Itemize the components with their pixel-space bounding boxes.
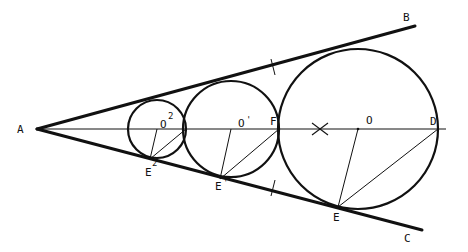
ray-ab: [37, 26, 415, 129]
label-o2: O: [160, 119, 167, 130]
label-e: E: [333, 212, 340, 223]
radius-oe: [338, 129, 358, 207]
label-e1-prime: ': [223, 179, 228, 188]
tick-mark-top: [271, 59, 275, 75]
chord-ed: [338, 129, 438, 207]
label-e1: E: [215, 181, 222, 192]
center-dot-o: [357, 128, 360, 131]
label-f: F: [270, 116, 277, 127]
geometry-diagram: [0, 0, 468, 252]
label-b: B: [403, 12, 410, 23]
label-o2-superscript: 2: [168, 112, 173, 121]
label-o1: O: [238, 118, 245, 129]
label-o1-prime: ': [246, 116, 251, 125]
tick-mark-bottom: [271, 180, 275, 196]
label-e2-superscript: 2: [152, 159, 157, 168]
label-e2: E: [145, 167, 152, 178]
label-d: D: [430, 116, 437, 127]
label-a: A: [17, 124, 24, 135]
label-o: O: [366, 115, 373, 126]
label-c: C: [404, 233, 411, 244]
ray-ac: [37, 129, 422, 230]
